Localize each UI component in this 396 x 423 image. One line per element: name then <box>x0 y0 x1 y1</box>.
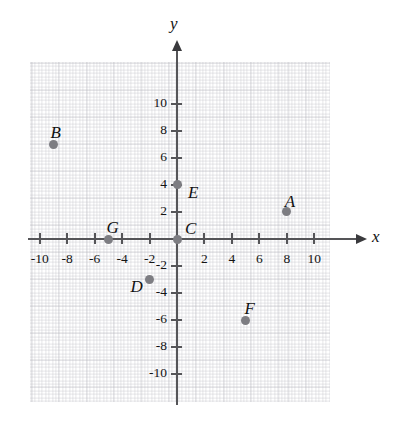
x-axis-arrow-icon <box>356 234 367 244</box>
y-axis-tick <box>171 292 182 294</box>
x-axis-tick <box>94 233 96 244</box>
y-axis-tick-label: -2 <box>131 257 167 273</box>
point-label-e: E <box>188 183 198 203</box>
x-axis-tick <box>258 233 260 244</box>
x-axis-tick <box>121 233 123 244</box>
y-axis-tick <box>171 130 182 132</box>
y-axis-tick-label: 4 <box>131 176 167 192</box>
x-axis-tick <box>39 233 41 244</box>
point-label-b: B <box>51 123 61 143</box>
x-axis-tick <box>231 233 233 244</box>
plotted-point-c <box>173 235 182 244</box>
y-axis-tick <box>171 319 182 321</box>
y-axis-tick-label: 10 <box>131 95 167 111</box>
x-axis-tick <box>66 233 68 244</box>
y-axis-label: y <box>170 14 178 34</box>
x-axis-tick-label: 10 <box>298 251 330 267</box>
y-axis-tick <box>171 103 182 105</box>
point-label-d: D <box>131 277 143 297</box>
coordinate-plane-figure: x y -10-8-6-4-2246810108642-2-4-6-8-10 A… <box>0 0 396 423</box>
y-axis-tick <box>171 211 182 213</box>
plotted-point-e <box>173 180 182 189</box>
y-axis-tick <box>171 346 182 348</box>
y-axis-tick <box>171 157 182 159</box>
y-axis-tick-label: 2 <box>131 203 167 219</box>
x-axis-tick <box>286 233 288 244</box>
y-axis-tick <box>171 373 182 375</box>
point-label-g: G <box>106 218 118 238</box>
grid-background <box>30 62 330 402</box>
point-label-f: F <box>245 299 255 319</box>
x-axis-tick <box>313 233 315 244</box>
x-axis-tick <box>149 233 151 244</box>
y-axis-tick-label: 6 <box>131 149 167 165</box>
x-axis-label: x <box>372 227 380 247</box>
y-axis-arrow-icon <box>172 40 182 51</box>
point-label-a: A <box>285 192 295 212</box>
y-axis-tick-label: 8 <box>131 122 167 138</box>
y-axis-tick <box>171 265 182 267</box>
point-label-c: C <box>185 219 196 239</box>
x-axis-tick <box>203 233 205 244</box>
y-axis-line <box>176 48 178 405</box>
y-axis-tick-label: -10 <box>131 365 167 381</box>
y-axis-tick-label: -6 <box>131 311 167 327</box>
y-axis-tick-label: -8 <box>131 338 167 354</box>
